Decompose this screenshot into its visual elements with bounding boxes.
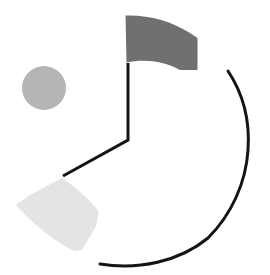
abstract-geometric-figure [0,0,270,275]
filled-circle [22,66,66,110]
figure-canvas [0,0,270,275]
